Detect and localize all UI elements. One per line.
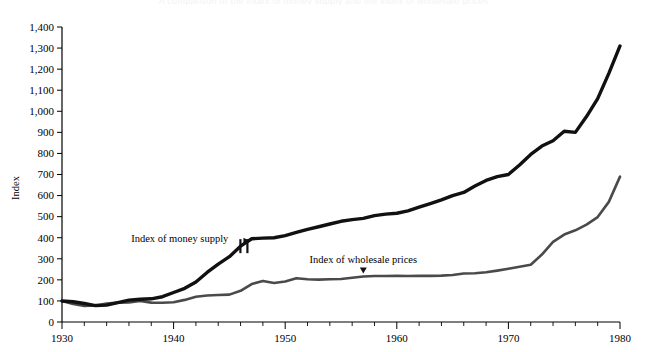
x-axis-tick-labels: 193019401950196019701980 — [51, 332, 632, 344]
y-tick-label: 800 — [38, 147, 55, 159]
y-axis-tick-labels: 01002003004005006007008009001,0001,1001,… — [29, 21, 54, 328]
x-tick-label: 1970 — [497, 332, 520, 344]
figure-top-caption: A comparison of the index of money suppl… — [0, 0, 647, 5]
y-tick-label: 900 — [38, 126, 55, 138]
line-chart: Index 01002003004005006007008009001,0001… — [0, 0, 647, 352]
x-tick-label: 1960 — [386, 332, 409, 344]
y-axis-ticks — [57, 27, 62, 322]
money-supply-label: Index of money supply — [131, 233, 229, 244]
x-tick-label: 1950 — [274, 332, 297, 344]
y-tick-label: 1,000 — [29, 105, 54, 117]
x-tick-label: 1980 — [609, 332, 632, 344]
wholesale-prices-label: Index of wholesale prices — [310, 254, 418, 265]
y-tick-label: 100 — [38, 295, 55, 307]
x-tick-label: 1930 — [51, 332, 74, 344]
y-tick-label: 500 — [38, 210, 55, 222]
x-tick-label: 1940 — [163, 332, 186, 344]
y-tick-label: 1,400 — [29, 21, 54, 33]
chart-figure: A comparison of the index of money suppl… — [0, 0, 647, 352]
y-axis-title: Index — [10, 175, 21, 200]
y-tick-label: 1,100 — [29, 84, 54, 96]
series-line-money-supply — [62, 46, 620, 306]
x-axis-ticks — [62, 322, 620, 329]
y-tick-label: 400 — [38, 232, 55, 244]
y-tick-label: 300 — [38, 253, 55, 265]
y-tick-label: 1,200 — [29, 63, 54, 75]
y-tick-label: 700 — [38, 168, 55, 180]
y-tick-label: 600 — [38, 189, 55, 201]
y-tick-label: 200 — [38, 274, 55, 286]
y-tick-label: 0 — [49, 316, 55, 328]
wholesale-prices-label-pointer — [360, 267, 367, 273]
y-tick-label: 1,300 — [29, 42, 54, 54]
